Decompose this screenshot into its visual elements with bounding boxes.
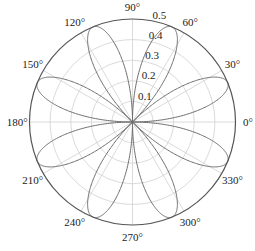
grid-spoke bbox=[81, 122, 133, 211]
r-tick-label: 0.5 bbox=[152, 9, 166, 21]
theta-tick-label: 210° bbox=[22, 174, 43, 186]
theta-tick-label: 150° bbox=[22, 58, 43, 70]
grid-spoke bbox=[43, 71, 132, 123]
theta-tick-label: 30° bbox=[225, 58, 240, 70]
grid-spoke bbox=[43, 122, 132, 174]
theta-tick-label: 60° bbox=[182, 16, 197, 28]
theta-tick-label: 90° bbox=[125, 1, 140, 13]
r-tick-label: 0.3 bbox=[145, 49, 159, 61]
r-tick-label: 0.2 bbox=[142, 69, 156, 81]
polar-plot: 0.10.20.30.40.5 0°30°60°90°120°150°180°2… bbox=[0, 0, 255, 251]
grid-spoke bbox=[133, 33, 185, 122]
r-tick-label: 0.1 bbox=[138, 90, 152, 102]
theta-tick-label: 270° bbox=[122, 231, 143, 243]
grid-spoke bbox=[81, 33, 133, 122]
theta-tick-label: 240° bbox=[64, 216, 85, 228]
grid-spoke bbox=[133, 122, 222, 174]
theta-tick-label: 180° bbox=[7, 116, 28, 128]
theta-tick-label: 300° bbox=[180, 216, 201, 228]
theta-tick-label: 330° bbox=[222, 174, 243, 186]
grid-spoke bbox=[133, 122, 185, 211]
theta-tick-label: 0° bbox=[243, 116, 253, 128]
theta-tick-label: 120° bbox=[64, 16, 85, 28]
r-tick-label: 0.4 bbox=[149, 29, 163, 41]
